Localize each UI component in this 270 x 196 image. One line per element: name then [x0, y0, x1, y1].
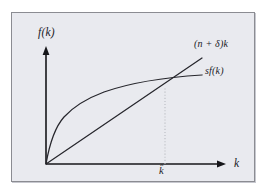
solow-diagram-figure: f(k) k (n + δ)k sf(k) k̂ [0, 0, 270, 196]
x-axis-arrowhead [217, 161, 226, 168]
steady-state-label: k̂ [159, 166, 164, 177]
y-axis-arrowhead [43, 46, 50, 55]
chart-panel: f(k) k (n + δ)k sf(k) k̂ [11, 12, 255, 182]
y-axis-label: f(k) [38, 27, 55, 39]
saving-curve-label: sf(k) [205, 66, 224, 76]
depreciation-line-label: (n + δ)k [194, 39, 228, 49]
saving-curve [46, 75, 202, 164]
x-axis-label: k [234, 158, 239, 170]
